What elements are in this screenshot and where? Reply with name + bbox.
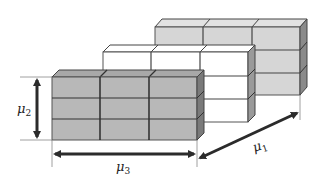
front-layer [52,70,204,140]
mu2-sub: 2 [25,108,31,118]
diagram-stage: μ2 μ3 μ1 [0,0,327,183]
mu3-label: μ3 [116,160,130,176]
mu3-sub: 3 [124,166,130,176]
block-diagram [0,0,327,183]
mu2-label: μ2 [17,102,31,118]
